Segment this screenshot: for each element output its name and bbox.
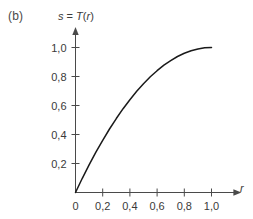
axis-title: s = T(r) bbox=[58, 10, 94, 22]
y-tick-label: 0,2 bbox=[51, 158, 66, 170]
x-tick-label: 0,2 bbox=[95, 200, 110, 212]
x-tick-label: 0,8 bbox=[177, 200, 192, 212]
data-curve bbox=[76, 48, 212, 193]
y-tick-label: 1,0 bbox=[51, 42, 66, 54]
axis-title-paren-close: ) bbox=[90, 10, 94, 22]
x-axis bbox=[76, 189, 242, 195]
x-tick-label: 0 bbox=[72, 200, 78, 212]
x-tick-label: 0,4 bbox=[122, 200, 137, 212]
y-axis bbox=[72, 27, 78, 193]
x-axis-label: r bbox=[240, 182, 244, 194]
figure-panel: (b) s = T(r) r 0,20,40,60,81,0 00,20,40,… bbox=[0, 0, 253, 219]
y-tick-label: 0,8 bbox=[51, 71, 66, 83]
y-tick-labels: 0,20,40,60,81,0 bbox=[51, 42, 66, 170]
curve-path bbox=[76, 48, 212, 193]
x-tick-label: 0,6 bbox=[149, 200, 164, 212]
y-tick-label: 0,4 bbox=[51, 129, 66, 141]
x-tick-labels: 00,20,40,60,81,0 bbox=[72, 200, 219, 212]
y-tick-label: 0,6 bbox=[51, 100, 66, 112]
plot-area: 0,20,40,60,81,0 00,20,40,60,81,0 bbox=[0, 0, 253, 219]
panel-label: (b) bbox=[8, 9, 23, 23]
x-tick-label: 1,0 bbox=[204, 200, 219, 212]
axis-title-T: T bbox=[76, 10, 83, 22]
axis-title-equals: = bbox=[64, 10, 77, 22]
